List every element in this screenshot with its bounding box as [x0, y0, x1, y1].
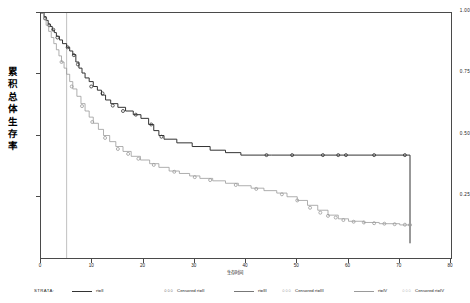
legend-line-swatch [354, 291, 374, 292]
censored-marker [393, 223, 396, 226]
censored-marker [309, 206, 312, 209]
censored-marker [319, 211, 322, 214]
x-axis-tick-label: 80 [447, 264, 452, 269]
legend-item-label: Censored rt=IV [415, 287, 444, 295]
y-axis-title-char: 体 [6, 103, 20, 115]
legend-item[interactable]: ○○○Censored rt=II [164, 287, 204, 295]
legend-item[interactable]: rt=III [232, 287, 267, 295]
legend-censored-swatch: ○○○ [164, 287, 174, 295]
censored-marker [104, 136, 107, 139]
y-axis-title-char: 总 [6, 91, 20, 103]
legend-censored-swatch: ○○○ [282, 287, 292, 295]
censored-marker [334, 216, 337, 219]
x-axis-tick-label: 0 [39, 264, 42, 269]
y-axis-title: 累 积 总 体 生 存 率 [6, 66, 20, 153]
censored-marker [137, 157, 140, 160]
censored-marker [116, 147, 119, 150]
legend-item[interactable]: rt=II [70, 287, 104, 295]
legend-title: STRATA: [34, 287, 54, 295]
censored-marker [127, 152, 130, 155]
x-axis-tick-label: 60 [345, 264, 350, 269]
legend-item[interactable]: rt=IV [352, 287, 387, 295]
legend: STRATA:rt=II○○○Censored rt=IIrt=III○○○Ce… [34, 287, 464, 299]
x-axis-tick-label: 50 [294, 264, 299, 269]
x-axis-tick-label: 70 [396, 264, 401, 269]
legend-line-swatch [72, 291, 92, 292]
legend-item[interactable]: ○○○Censored rt=III [282, 287, 324, 295]
legend-item-label: rt=IV [378, 287, 387, 295]
y-axis-title-char: 生 [6, 116, 20, 128]
x-axis-tick-label: 10 [89, 264, 94, 269]
y-axis-title-char: 存 [6, 128, 20, 140]
survival-chart-figure: 累 积 总 体 生 存 率 1.000.750.500.25 010203040… [0, 0, 470, 303]
y-axis-title-char: 累 [6, 66, 20, 78]
censored-marker [81, 105, 84, 108]
x-axis-title: 生存时间 [0, 269, 470, 275]
survival-curve [41, 13, 410, 225]
censored-marker [90, 85, 93, 88]
x-axis-tick-label: 20 [140, 264, 145, 269]
censored-marker [352, 220, 355, 223]
legend-item-label: Censored rt=III [295, 287, 324, 295]
legend-item[interactable]: ○○○Censored rt=IV [402, 287, 444, 295]
x-axis-tick-label: 30 [191, 264, 196, 269]
legend-item-label: rt=III [258, 287, 267, 295]
legend-item-label: Censored rt=II [177, 287, 204, 295]
censored-marker [209, 179, 212, 182]
legend-item-label: rt=II [96, 287, 104, 295]
survival-curve [41, 13, 410, 243]
survival-curves [41, 13, 451, 258]
legend-censored-swatch: ○○○ [402, 287, 412, 295]
censored-marker [111, 104, 114, 107]
censored-marker [122, 110, 125, 113]
censored-marker [234, 183, 237, 186]
x-axis-tick-label: 40 [242, 264, 247, 269]
legend-line-swatch [234, 291, 254, 292]
y-axis-title-char: 积 [6, 78, 20, 90]
y-axis-title-char: 率 [6, 140, 20, 152]
plot-area [40, 12, 452, 259]
